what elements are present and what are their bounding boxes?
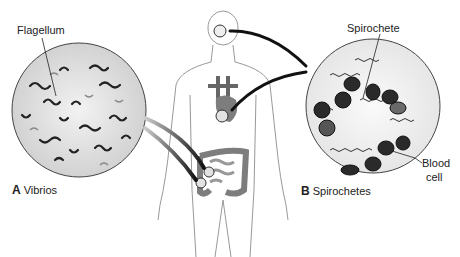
brain-site bbox=[214, 25, 226, 37]
human-body bbox=[158, 11, 288, 257]
cell-label: cell bbox=[426, 171, 443, 183]
panel-b-caption: BSpirochetes bbox=[301, 185, 371, 197]
flagellum-label: Flagellum bbox=[17, 24, 65, 36]
illustration bbox=[0, 0, 460, 257]
spirochete-label: Spirochete bbox=[347, 22, 400, 34]
blood-label: Blood bbox=[422, 157, 450, 169]
figure: Flagellum Spirochete Blood cell AVibrios… bbox=[0, 0, 460, 257]
vibrios-micrograph bbox=[12, 43, 146, 177]
panel-a-caption: AVibrios bbox=[12, 184, 57, 196]
intestine-site bbox=[196, 151, 246, 194]
heart-site bbox=[208, 76, 238, 122]
